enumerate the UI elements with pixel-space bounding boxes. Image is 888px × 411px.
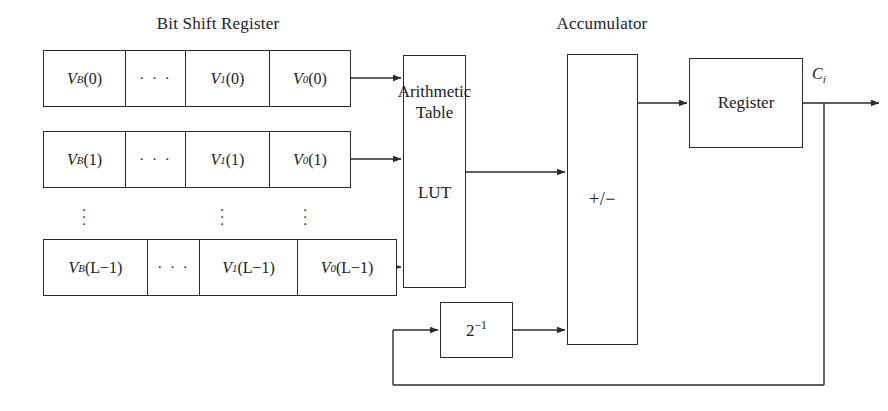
title-accumulator: Accumulator [557,14,648,34]
register-block: Register [689,58,803,148]
cell-v0-row1: V0(1) [270,132,350,187]
shift-register-row-1: VB(1) · · · V1(1) V0(1) [43,131,351,188]
cell-ellipsis-rowL: · · · [148,240,200,295]
accumulator-block: +/− [567,54,638,345]
did-architecture-diagram: Bit Shift Register Accumulator VB(0) · ·… [0,0,888,411]
arithmetic-table-lut-block: Arithmetic Table LUT [403,55,466,288]
cell-v1-rowL: V1(L−1) [200,240,298,295]
cell-ellipsis-row1: · · · [126,132,186,187]
shift-block-label: 2−1 [466,319,487,341]
shift-register-row-L-1: VB(L−1) · · · V1(L−1) V0(L−1) [43,239,397,296]
arith-table-line-1: Arithmetic [398,82,472,102]
cell-v1-row1: V1(1) [186,132,270,187]
cell-v1-row0: V1(0) [186,51,270,106]
cell-vb-rowL: VB(L−1) [44,240,148,295]
vertical-ellipsis-col-v1: ... [217,203,227,224]
cell-ellipsis-row0: · · · [126,51,186,106]
vertical-ellipsis-col-vb: ... [79,203,89,224]
cell-vb-row1: VB(1) [44,132,126,187]
arith-table-line-2: Table [416,103,454,123]
title-bit-shift-register: Bit Shift Register [157,14,280,34]
cell-v0-row0: V0(0) [270,51,350,106]
accumulator-plus-minus-label: +/− [589,189,616,210]
shift-2-inverse-block: 2−1 [440,302,513,358]
arith-table-lut-label: LUT [418,183,451,203]
vertical-ellipsis-col-v0: ... [300,203,310,224]
cell-vb-row0: VB(0) [44,51,126,106]
cell-v0-rowL: V0(L−1) [298,240,396,295]
shift-register-row-0: VB(0) · · · V1(0) V0(0) [43,50,351,107]
output-label-ci: Ci [812,65,826,85]
register-label: Register [718,93,775,113]
